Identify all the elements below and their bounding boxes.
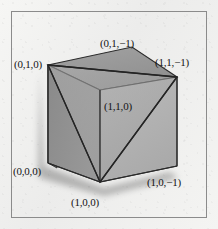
- cube-diagram: [0, 0, 218, 229]
- vertex-label-1-0-neg1: (1,0,−1): [147, 177, 181, 188]
- vertex-label-1-1-neg1: (1,1,−1): [155, 57, 189, 68]
- vertex-label-1-0-0: (1,0,0): [71, 197, 99, 208]
- figure-container: (0,1,0) (0,1,−1) (1,1,−1) (1,1,0) (0,0,0…: [0, 0, 218, 229]
- vertex-label-0-1-neg1: (0,1,−1): [100, 38, 134, 49]
- vertex-label-0-0-0: (0,0,0): [13, 166, 41, 177]
- vertex-label-0-1-0: (0,1,0): [14, 59, 42, 70]
- vertex-label-1-1-0: (1,1,0): [104, 101, 132, 112]
